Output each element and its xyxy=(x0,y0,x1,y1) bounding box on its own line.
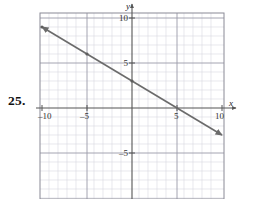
coordinate-graph: –10 –5 5 10 10 5 –5 x y xyxy=(0,0,253,199)
x-tick-label-5: 5 xyxy=(174,111,179,121)
x-axis-label: x xyxy=(228,98,233,108)
figure-panel: 25. xyxy=(0,0,253,199)
y-axis-label: y xyxy=(125,1,130,11)
y-tick-label-10: 10 xyxy=(119,13,129,23)
x-tick-label-neg10: –10 xyxy=(37,111,52,121)
y-tick-label-neg5: –5 xyxy=(118,148,129,158)
x-tick-label-10: 10 xyxy=(215,111,225,121)
x-tick-label-neg5: –5 xyxy=(79,111,90,121)
y-tick-label-5: 5 xyxy=(124,58,129,68)
